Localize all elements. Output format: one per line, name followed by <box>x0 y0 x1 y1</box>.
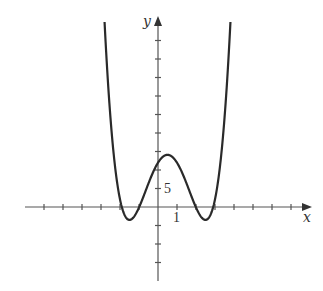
y-axis: y 5 <box>142 13 171 281</box>
y-tick-label-5: 5 <box>164 181 171 196</box>
y-axis-label: y <box>142 13 152 29</box>
x-tick-label-1: 1 <box>173 210 180 225</box>
x-axis: x 1 <box>25 203 312 225</box>
y-axis-arrow-icon <box>154 16 162 26</box>
function-graph: x 1 y 5 <box>0 0 323 291</box>
x-axis-label: x <box>303 209 311 225</box>
